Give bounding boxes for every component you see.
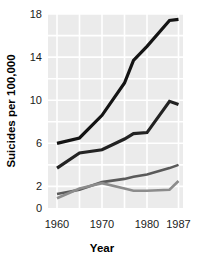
y-tick-label: 2	[36, 180, 42, 192]
x-tick-label: 1970	[90, 218, 114, 230]
y-tick-label: 6	[36, 137, 42, 149]
y-tick-label: 0	[36, 202, 42, 214]
line-chart: 026101418 1960197019801987 Year Suicides…	[0, 0, 204, 267]
x-tick-label: 1980	[135, 218, 159, 230]
y-axis-title: Suicides per 100,000	[5, 54, 17, 167]
x-axis-title: Year	[90, 242, 115, 254]
y-tick-label: 10	[30, 94, 42, 106]
y-tick-label: 18	[30, 8, 42, 20]
y-tick-label: 14	[30, 51, 42, 63]
x-tick-label: 1960	[45, 218, 69, 230]
chart-figure: 026101418 1960197019801987 Year Suicides…	[0, 0, 204, 267]
x-tick-label: 1987	[166, 218, 190, 230]
